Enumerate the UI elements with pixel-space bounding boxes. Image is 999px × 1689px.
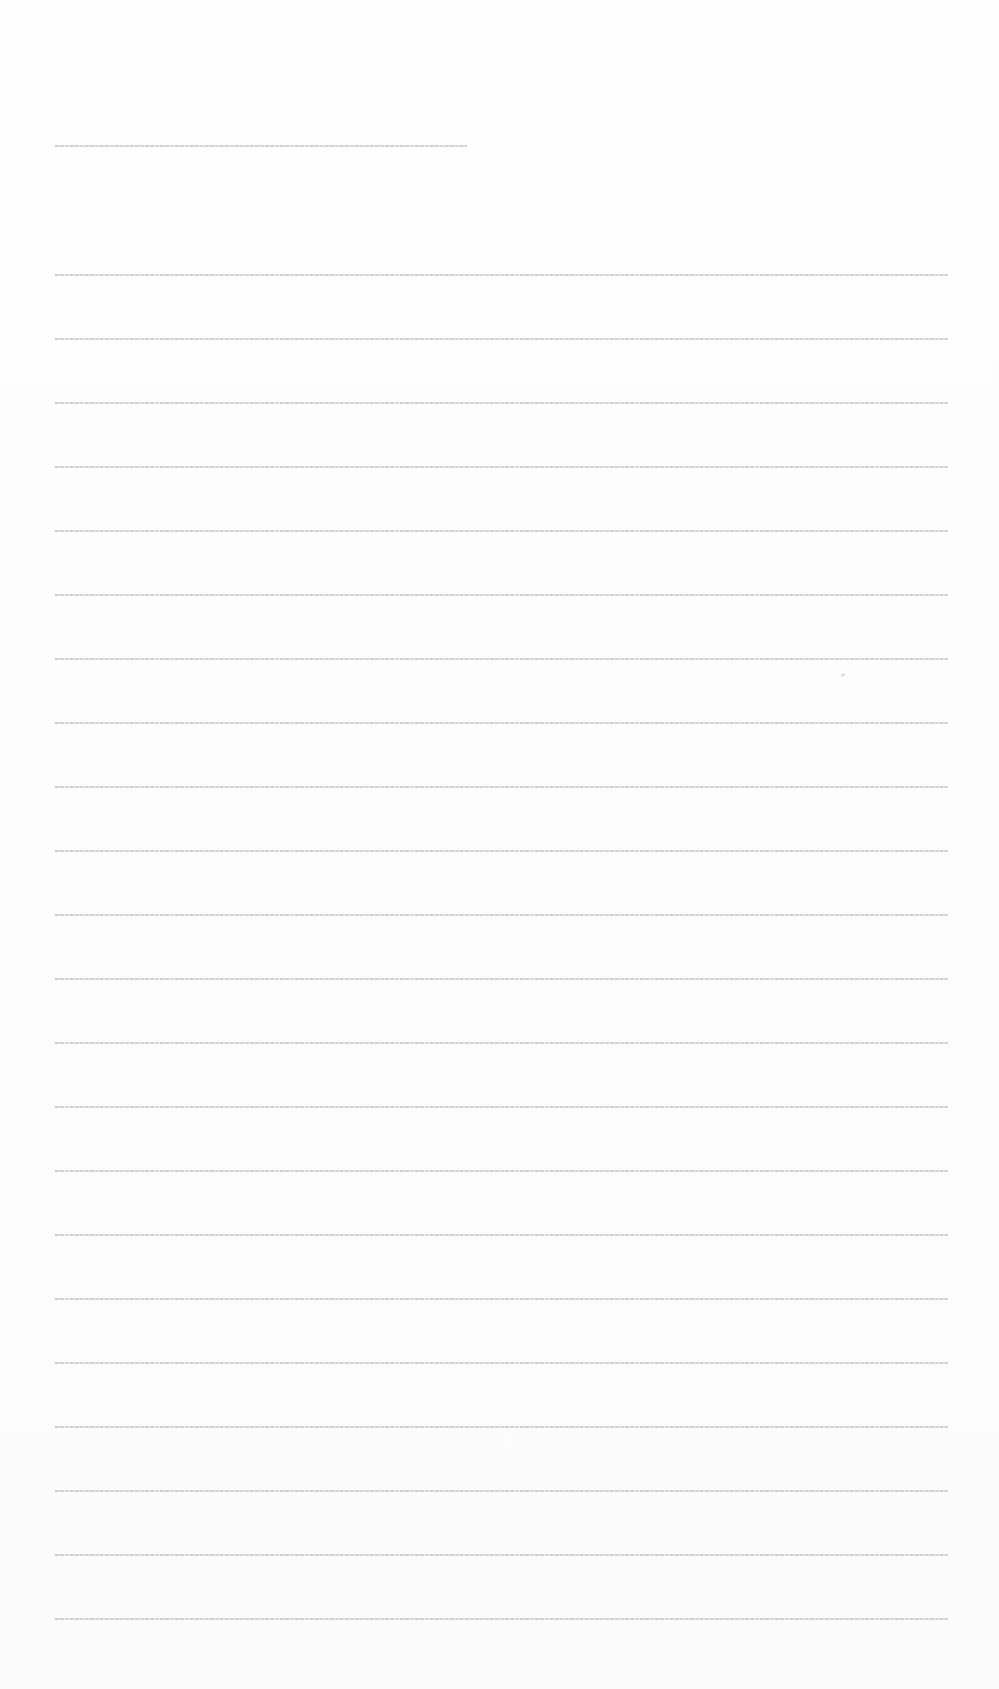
text-line — [55, 1106, 948, 1108]
text-line — [55, 1170, 948, 1172]
text-line — [55, 658, 948, 660]
text-line — [55, 338, 948, 340]
text-line — [55, 1362, 948, 1364]
text-line — [55, 1618, 948, 1620]
text-line — [55, 145, 467, 147]
text-line — [55, 1426, 948, 1428]
text-line — [55, 530, 948, 532]
text-line — [55, 402, 948, 404]
text-line — [55, 274, 948, 276]
text-line — [55, 466, 948, 468]
text-line — [55, 850, 948, 852]
document-page — [0, 0, 999, 1689]
text-line — [55, 786, 948, 788]
text-line — [55, 1554, 948, 1556]
text-line — [55, 722, 948, 724]
text-line — [55, 1298, 948, 1300]
text-line — [55, 1234, 948, 1236]
text-line — [55, 1490, 948, 1492]
text-line — [55, 914, 948, 916]
text-line — [55, 978, 948, 980]
text-line — [55, 1042, 948, 1044]
scan-speck — [841, 673, 845, 677]
text-line — [55, 594, 948, 596]
